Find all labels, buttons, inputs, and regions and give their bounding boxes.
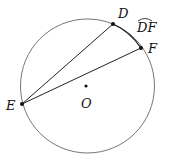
- chord-ed: [22, 24, 113, 104]
- label-o: O: [81, 96, 92, 111]
- label-f: F: [147, 41, 158, 56]
- center-point-o: [84, 84, 87, 87]
- circle-diagram: D F E O DF: [0, 0, 169, 164]
- label-e: E: [5, 98, 16, 113]
- point-f: [139, 46, 143, 50]
- label-d: D: [117, 6, 129, 21]
- point-e: [20, 102, 24, 106]
- label-arc-df: DF: [136, 20, 157, 35]
- point-d: [111, 22, 115, 26]
